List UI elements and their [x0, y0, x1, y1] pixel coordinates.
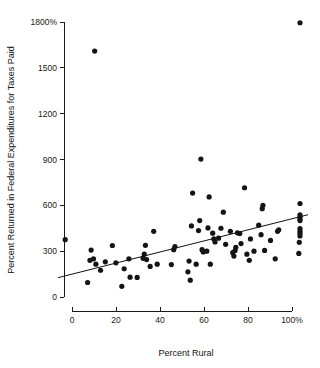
- x-axis-tick-label: 20: [111, 315, 121, 325]
- data-point: [143, 243, 148, 248]
- trend-line: [58, 215, 308, 278]
- data-points: [63, 20, 303, 289]
- data-point: [119, 284, 124, 289]
- y-axis-tick-label: 1200: [38, 109, 57, 119]
- data-point: [268, 238, 273, 243]
- data-point: [135, 275, 140, 280]
- data-point: [98, 268, 103, 273]
- data-point: [276, 227, 281, 232]
- scatter-plot-figure: 1800%150012009006003000Percent Returned …: [0, 0, 320, 368]
- data-point: [297, 20, 302, 25]
- data-point: [228, 229, 233, 234]
- data-point: [93, 262, 98, 267]
- data-point: [155, 262, 160, 267]
- y-axis-tick-label: 0: [52, 292, 57, 302]
- x-axis-tick-label: 40: [155, 315, 165, 325]
- data-point: [273, 256, 278, 261]
- data-point: [89, 248, 94, 253]
- data-point: [144, 257, 149, 262]
- plot-canvas: 1800%150012009006003000Percent Returned …: [0, 0, 320, 368]
- data-point: [258, 232, 263, 237]
- data-point: [63, 237, 68, 242]
- data-point: [212, 239, 217, 244]
- data-point: [242, 185, 247, 190]
- data-point: [210, 231, 215, 236]
- data-point: [297, 201, 302, 206]
- y-axis-title: Percent Returned in Federal Expenditures…: [6, 46, 16, 273]
- data-point: [244, 252, 249, 257]
- data-point: [297, 240, 302, 245]
- data-point: [110, 243, 115, 248]
- x-axis-title: Percent Rural: [158, 348, 213, 358]
- data-point: [198, 156, 203, 161]
- data-point: [189, 223, 194, 228]
- data-point: [262, 248, 267, 253]
- data-point: [231, 253, 236, 258]
- data-point: [85, 280, 90, 285]
- data-point: [197, 218, 202, 223]
- data-point: [218, 226, 223, 231]
- data-point: [186, 259, 191, 264]
- data-point: [205, 225, 210, 230]
- y-axis: 1800%150012009006003000Percent Returned …: [6, 17, 64, 302]
- data-point: [247, 258, 252, 263]
- y-axis-tick-label: 900: [43, 155, 57, 165]
- y-axis-tick-label: 1800%: [31, 17, 58, 27]
- data-point: [169, 262, 174, 267]
- data-point: [188, 278, 193, 283]
- data-point: [238, 241, 243, 246]
- x-axis-tick-label: 100%: [281, 315, 303, 325]
- data-point: [196, 228, 201, 233]
- y-axis-tick-label: 600: [43, 200, 57, 210]
- data-point: [91, 256, 96, 261]
- data-point: [92, 48, 97, 53]
- data-point: [148, 264, 153, 269]
- data-point: [223, 242, 228, 247]
- x-axis: 020406080100%: [70, 307, 304, 325]
- data-point: [194, 262, 199, 267]
- data-point: [208, 262, 213, 267]
- data-point: [221, 210, 226, 215]
- x-axis-tick-label: 60: [199, 315, 209, 325]
- y-axis-tick-label: 300: [43, 246, 57, 256]
- x-axis-tick-label: 80: [243, 315, 253, 325]
- data-point: [248, 236, 253, 241]
- data-point: [122, 266, 127, 271]
- data-point: [103, 259, 108, 264]
- data-point: [260, 203, 265, 208]
- data-point: [127, 275, 132, 280]
- data-point: [151, 229, 156, 234]
- regression-line: [58, 215, 308, 278]
- data-point: [251, 249, 256, 254]
- data-point: [296, 251, 301, 256]
- data-point: [204, 249, 209, 254]
- data-point: [207, 194, 212, 199]
- data-point: [297, 226, 302, 231]
- data-point: [185, 269, 190, 274]
- y-axis-tick-label: 1500: [38, 63, 57, 73]
- data-point: [190, 191, 195, 196]
- x-axis-tick-label: 0: [70, 315, 75, 325]
- data-point: [233, 245, 238, 250]
